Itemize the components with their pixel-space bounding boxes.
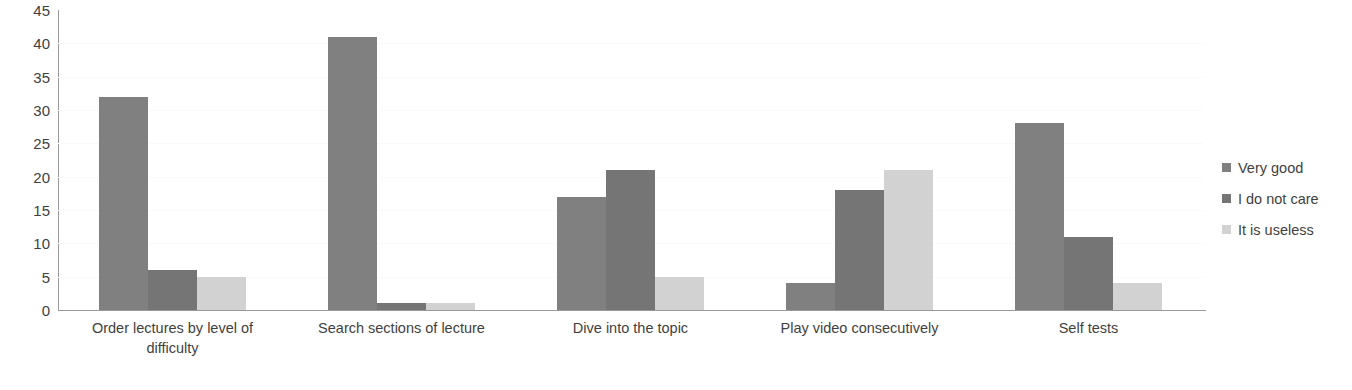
bar-cat1-series0[interactable] [328,37,377,310]
y-tick-40: 40 [2,36,50,51]
bar-chart: 45 40 35 30 25 20 15 10 5 0 [0,0,1352,390]
y-tick-10: 10 [2,236,50,251]
bar-cat2-series1[interactable] [606,170,655,310]
x-label-cat0: Order lectures by level of difficulty [58,318,287,358]
legend-label-1: I do not care [1238,191,1319,207]
bar-cat3-series0[interactable] [786,283,835,310]
bar-cat1-series2[interactable] [426,303,475,310]
legend-item-2[interactable]: It is useless [1222,217,1350,242]
bar-cat2-series0[interactable] [557,197,606,310]
y-tick-20: 20 [2,170,50,185]
bar-group-2 [516,10,745,310]
legend-item-1[interactable]: I do not care [1222,186,1350,211]
bar-cat2-series2[interactable] [655,277,704,310]
x-label-cat2-line0: Dive into the topic [516,318,745,338]
bar-group-1 [287,10,516,310]
bar-group-0 [58,10,287,310]
bar-cat1-series1[interactable] [377,303,426,310]
bar-cat4-series2[interactable] [1113,283,1162,310]
bar-cat0-series2[interactable] [197,277,246,310]
y-tick-35: 35 [2,70,50,85]
y-axis-tick-labels: 45 40 35 30 25 20 15 10 5 0 [0,0,50,390]
x-axis-line [58,310,1206,311]
x-axis-category-labels: Order lectures by level of difficulty Se… [58,318,1203,378]
x-label-cat0-line1: difficulty [58,338,287,358]
bar-cat3-series1[interactable] [835,190,884,310]
x-label-cat3: Play video consecutively [745,318,974,338]
x-label-cat1-line0: Search sections of lecture [287,318,516,338]
y-tick-30: 30 [2,103,50,118]
bar-group-3 [745,10,974,310]
legend-swatch-icon-1 [1222,194,1231,203]
x-label-cat4: Self tests [974,318,1203,338]
bar-cat4-series0[interactable] [1015,123,1064,310]
bar-cat0-series0[interactable] [99,97,148,310]
bar-cat3-series2[interactable] [884,170,933,310]
legend-swatch-icon-2 [1222,225,1231,234]
y-tick-25: 25 [2,136,50,151]
legend-item-0[interactable]: Very good [1222,155,1350,180]
y-tick-15: 15 [2,203,50,218]
bar-group-4 [974,10,1203,310]
bar-cat0-series1[interactable] [148,270,197,310]
plot-area [58,10,1203,310]
legend-label-2: It is useless [1238,222,1314,238]
x-label-cat1: Search sections of lecture [287,318,516,338]
x-label-cat2: Dive into the topic [516,318,745,338]
bar-cat4-series1[interactable] [1064,237,1113,310]
legend-label-0: Very good [1238,160,1303,176]
x-label-cat3-line0: Play video consecutively [745,318,974,338]
y-tick-45: 45 [2,3,50,18]
y-tick-5: 5 [2,270,50,285]
chart-legend: Very good I do not care It is useless [1222,155,1350,248]
x-label-cat0-line0: Order lectures by level of [58,318,287,338]
x-label-cat4-line0: Self tests [974,318,1203,338]
y-tick-0: 0 [2,303,50,318]
legend-swatch-icon-0 [1222,163,1231,172]
